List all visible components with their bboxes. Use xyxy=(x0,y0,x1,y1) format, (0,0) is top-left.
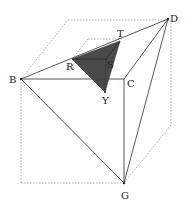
label-C: C xyxy=(127,78,135,89)
dashed-edge-B-top xyxy=(21,20,68,79)
label-D: D xyxy=(170,13,178,24)
label-Y: Y xyxy=(101,95,109,106)
solid-edges xyxy=(21,19,168,183)
vertex-B-dot xyxy=(20,78,22,80)
vertex-Y-dot xyxy=(104,91,106,93)
label-B: B xyxy=(9,74,16,85)
label-R: R xyxy=(66,61,74,72)
vertex-D-dot xyxy=(167,18,169,20)
label-T: T xyxy=(117,28,124,39)
label-G: G xyxy=(121,190,129,201)
label-S: S xyxy=(107,59,114,70)
cube-diagram: B C D G R S T Y xyxy=(0,0,194,204)
edge-D-G xyxy=(124,19,168,183)
vertex-G-dot xyxy=(123,182,125,184)
dashed-edge-right-bottom xyxy=(124,125,171,183)
